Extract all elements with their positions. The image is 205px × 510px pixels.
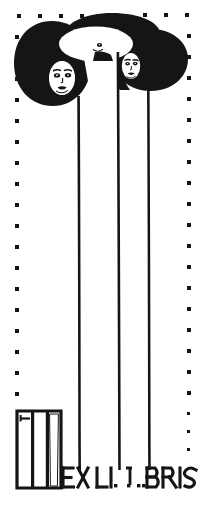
ex-libris-artwork [0, 0, 205, 510]
lettering-segment-right [147, 468, 196, 487]
figure-left-face [50, 62, 75, 95]
figure-right-stem [147, 88, 151, 470]
lettering-segment-left [63, 468, 111, 487]
lettering-dots [114, 468, 145, 487]
figure-right-face [122, 53, 140, 79]
figure-center-hair [64, 13, 160, 58]
figure-left-stem [77, 96, 81, 470]
figure-center-gown-edge [117, 52, 121, 470]
book-stack-monogram [17, 411, 61, 488]
bookplate: EX LIBRIS EX LI BRIS [0, 0, 205, 510]
